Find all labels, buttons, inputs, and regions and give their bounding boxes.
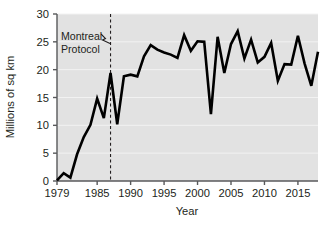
y-axis-tick-label: 20	[37, 64, 49, 76]
ozone-hole-area-chart: 051015202530 197919851990199520002005201…	[0, 0, 335, 226]
y-axis-tick-label: 25	[37, 36, 49, 48]
x-axis-title: Year	[176, 205, 199, 217]
x-axis-tick-label: 1990	[118, 187, 143, 199]
x-axis-tick-label: 2015	[285, 187, 310, 199]
x-axis-tick-labels: 19791985199019952000200520102015	[45, 187, 311, 199]
y-axis-tick-labels: 051015202530	[37, 8, 49, 187]
y-axis-title: Millions of sq km	[4, 56, 16, 139]
x-axis-tick-label: 1995	[152, 187, 177, 199]
y-axis-tick-label: 10	[37, 119, 49, 131]
x-axis-tick-label: 1979	[45, 187, 70, 199]
y-axis-tick-label: 0	[43, 175, 49, 187]
x-axis-tick-label: 2010	[252, 187, 277, 199]
montreal-protocol-label-line1: Montreal	[61, 30, 102, 42]
chart-canvas: 051015202530 197919851990199520002005201…	[0, 0, 335, 226]
x-axis-tick-label: 1985	[85, 187, 110, 199]
x-axis-tick-label: 2005	[219, 187, 244, 199]
montreal-protocol-label-line2: Protocol	[61, 43, 100, 55]
x-axis-tick-label: 2000	[185, 187, 210, 199]
y-axis-tick-label: 5	[43, 147, 49, 159]
y-axis-tick-label: 15	[37, 92, 49, 104]
y-axis-tick-label: 30	[37, 8, 49, 20]
